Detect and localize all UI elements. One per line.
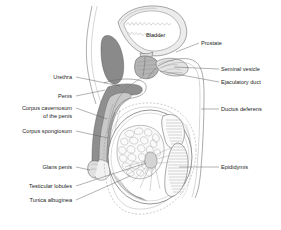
anatomy-figure: Urethra Penis Corpus cavernosum of the p… <box>0 0 281 230</box>
label-corpus-cavernosum-line2: of the penis <box>43 113 72 119</box>
labels-right-group: Prostate Seminal vesicle Ejaculatory duc… <box>201 40 262 170</box>
label-ejaculatory-duct: Ejaculatory duct <box>221 79 261 85</box>
corpus-cavernosum-crus <box>101 35 124 83</box>
label-ductus-deferens: Ductus deferens <box>221 106 262 112</box>
label-glans-penis: Glans penis <box>42 164 72 170</box>
label-epididymis: Epididymis <box>221 164 248 170</box>
prostate-gland <box>135 56 159 79</box>
leader-ejaculatory-duct <box>160 71 219 82</box>
label-urethra: Urethra <box>53 74 73 80</box>
label-prostate: Prostate <box>201 40 222 46</box>
leader-penis <box>76 90 105 96</box>
abdominal-wall-inner <box>91 6 101 103</box>
label-corpus-cavernosum-line1: Corpus cavernosum <box>22 105 72 111</box>
mediastinum-testis <box>145 152 157 168</box>
bladder-group <box>118 6 187 56</box>
label-penis: Penis <box>58 93 72 99</box>
labels-inner-group: Bladder <box>146 32 165 38</box>
label-bladder: Bladder <box>146 32 165 38</box>
abdominal-wall-outline <box>86 6 96 104</box>
glans-penis-group <box>88 160 110 180</box>
anatomy-diagram-svg: Urethra Penis Corpus cavernosum of the p… <box>0 0 281 230</box>
label-tunica-albuginea: Tunica albuginea <box>30 197 73 203</box>
label-seminal-vesicle: Seminal vesicle <box>221 66 260 72</box>
label-corpus-spongiosum: Corpus spongiosum <box>22 128 72 134</box>
pelvic-contour-group <box>86 6 101 104</box>
label-testicular-lobules: Testicular lobules <box>29 183 72 189</box>
labels-left-group: Urethra Penis Corpus cavernosum of the p… <box>22 74 73 203</box>
